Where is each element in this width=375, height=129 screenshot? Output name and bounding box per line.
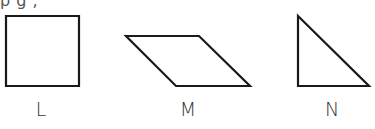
shape-l-square: [6, 16, 79, 86]
label-n: N: [325, 98, 339, 120]
label-m: M: [180, 98, 196, 120]
shape-n-triangle: [298, 16, 369, 86]
shape-m-parallelogram: [126, 36, 250, 86]
label-l: L: [36, 98, 47, 120]
